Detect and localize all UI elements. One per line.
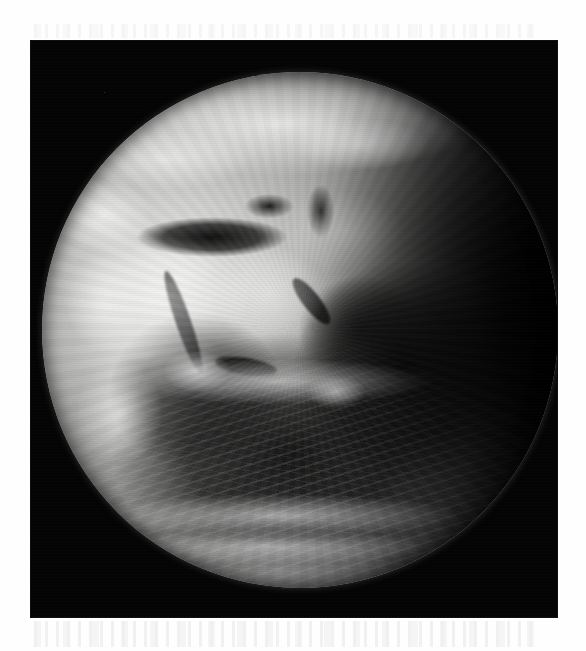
scanned-page [0, 0, 586, 651]
satellite-image-panel [31, 41, 557, 617]
south-polar-region [42, 72, 557, 588]
scan-artifact-top [34, 24, 539, 38]
earth-disc [42, 72, 557, 588]
scan-artifact-bottom [34, 621, 539, 647]
